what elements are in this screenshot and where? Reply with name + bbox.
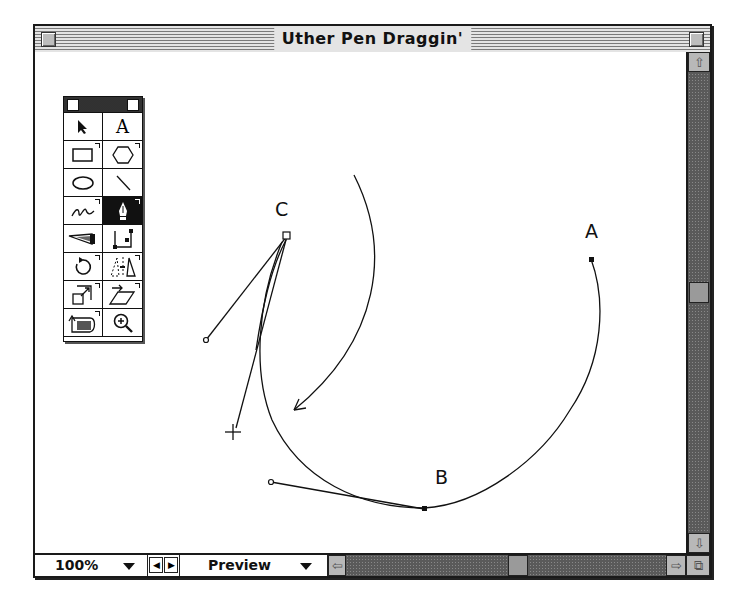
point-label-b: B [435,466,448,488]
text-tool[interactable]: A [103,113,142,141]
arrow-icon [76,119,90,135]
hexagon-icon [111,145,135,165]
toolbox-close-box[interactable] [67,99,79,111]
rectangle-icon [71,147,95,163]
line-tool[interactable] [103,169,142,197]
rotate-icon [72,256,94,278]
skew-tool[interactable] [103,281,142,309]
anchor-point-c[interactable] [283,232,290,239]
crosshair-cursor-icon [225,424,241,440]
text-icon: A [116,116,129,137]
bezier-path-icon [111,228,135,250]
rectangle-tool[interactable] [64,141,103,169]
pen-nib-icon [116,201,130,221]
path-segment-a-b[interactable] [424,259,600,508]
toolbox-zoom-box[interactable] [127,99,139,111]
trace-tool[interactable] [64,309,103,337]
control-handle-c-drag [236,236,287,428]
control-handle-b [271,482,424,509]
trace-icon [68,312,98,334]
reflect-tool[interactable] [103,253,142,281]
path-segment-b-c[interactable] [260,242,424,508]
ellipse-tool[interactable] [64,169,103,197]
knife-tool[interactable] [103,225,142,253]
toolbox-title-bar[interactable] [64,97,142,113]
arrow-tool[interactable] [64,113,103,141]
skew-icon [108,284,138,306]
control-handle-c-left [206,236,287,340]
polygon-tool[interactable] [103,141,142,169]
anchor-point-a[interactable] [589,257,594,262]
pen-tool[interactable] [103,197,142,225]
direction-arrow [294,175,374,410]
blend-icon [68,231,98,247]
control-point-c-left[interactable] [204,338,209,343]
ellipse-icon [71,175,95,191]
reflect-icon [109,256,137,278]
point-label-a: A [585,220,598,242]
blend-tool[interactable] [64,225,103,253]
scale-tool[interactable] [64,281,103,309]
magnifier-icon [112,312,134,334]
scale-icon [71,284,95,306]
squiggle-icon [70,202,96,220]
control-point-b-left[interactable] [269,480,274,485]
freehand-tool[interactable] [64,197,103,225]
point-label-c: C [275,198,288,220]
rotate-tool[interactable] [64,253,103,281]
zoom-tool[interactable] [103,309,142,337]
toolbox-palette[interactable]: A [63,96,143,342]
anchor-point-b[interactable] [422,506,427,511]
line-icon [113,173,133,193]
